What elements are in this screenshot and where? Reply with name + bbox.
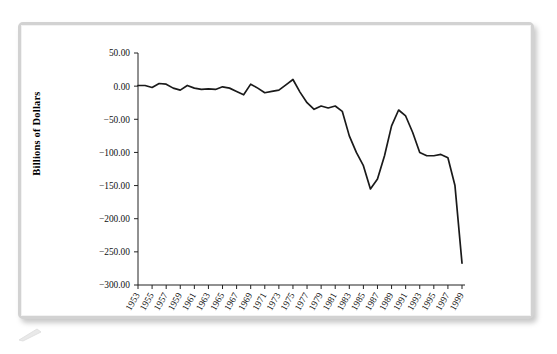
data-series-deficit: [138, 80, 462, 264]
y-tick-label: −200.00: [99, 214, 130, 224]
y-tick-label: −50.00: [104, 115, 131, 125]
y-tick-label: −300.00: [99, 280, 130, 290]
y-tick-label: 50.00: [109, 48, 130, 58]
chart-canvas: 50.000.00−50.00−100.00−150.00−200.00−250…: [0, 0, 557, 354]
y-tick-label: 0.00: [114, 82, 131, 92]
y-tick-label: −250.00: [99, 247, 130, 257]
y-tick-label: −100.00: [99, 148, 130, 158]
y-axis: 50.000.00−50.00−100.00−150.00−200.00−250…: [99, 48, 138, 290]
screenshot-root: 50.000.00−50.00−100.00−150.00−200.00−250…: [0, 0, 557, 354]
y-tick-label: −150.00: [99, 181, 130, 191]
x-axis: 1953195519571959196119631965196719691971…: [124, 285, 466, 312]
series-path: [138, 80, 462, 264]
y-axis-title: Billions of Dollars: [31, 54, 42, 214]
x-tick-label: 1999: [448, 291, 466, 313]
